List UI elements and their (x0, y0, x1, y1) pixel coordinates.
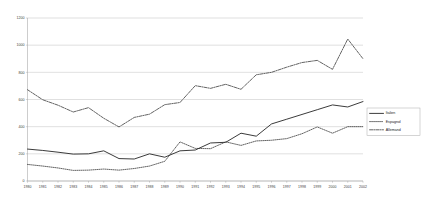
chart-canvas: 020040060080010001200 198019811982198319… (0, 0, 427, 207)
x-tick-label: 1989 (161, 185, 169, 189)
x-tick-label: 1992 (207, 185, 215, 189)
x-tick-label: 1994 (237, 185, 245, 189)
y-tick-label: 200 (19, 152, 25, 156)
x-axis: 1980198119821983198419851986198719881989… (24, 181, 367, 189)
x-tick-label: 2002 (359, 185, 367, 189)
y-axis: 020040060080010001200 (17, 16, 28, 183)
x-tick-label: 1991 (191, 185, 199, 189)
x-tick-label: 1997 (283, 185, 291, 189)
x-tick-label: 1982 (54, 185, 62, 189)
x-tick-label: 2001 (344, 185, 352, 189)
x-tick-label: 1985 (100, 185, 108, 189)
chart-legend: ItalienEspagnolAllemand (367, 108, 420, 136)
x-tick-label: 1998 (298, 185, 306, 189)
x-tick-label: 1999 (313, 185, 321, 189)
y-tick-label: 1000 (17, 43, 25, 47)
legend-label-italien[interactable]: Italien (386, 111, 396, 115)
x-tick-label: 1987 (130, 185, 138, 189)
line-chart: 020040060080010001200 198019811982198319… (0, 0, 427, 207)
x-tick-label: 2000 (329, 185, 337, 189)
series-line-italien (28, 102, 364, 159)
series-lines (28, 39, 364, 170)
x-tick-label: 1995 (252, 185, 260, 189)
x-tick-label: 1993 (222, 185, 230, 189)
x-tick-label: 1988 (146, 185, 154, 189)
x-tick-label: 1986 (115, 185, 123, 189)
series-line-allemand (28, 39, 364, 127)
x-tick-label: 1990 (176, 185, 184, 189)
legend-label-espagnol[interactable]: Espagnol (386, 120, 401, 124)
legend-label-allemand[interactable]: Allemand (386, 128, 401, 132)
series-line-espagnol (28, 127, 364, 171)
x-tick-label: 1980 (24, 185, 32, 189)
x-tick-label: 1996 (268, 185, 276, 189)
y-tick-label: 600 (19, 98, 25, 102)
y-tick-label: 800 (19, 71, 25, 75)
y-tick-label: 1200 (17, 16, 25, 20)
y-tick-label: 0 (23, 179, 25, 183)
x-tick-label: 1983 (69, 185, 77, 189)
x-tick-label: 1981 (39, 185, 47, 189)
gridlines (28, 18, 364, 181)
y-tick-label: 400 (19, 125, 25, 129)
x-tick-label: 1984 (85, 185, 93, 189)
